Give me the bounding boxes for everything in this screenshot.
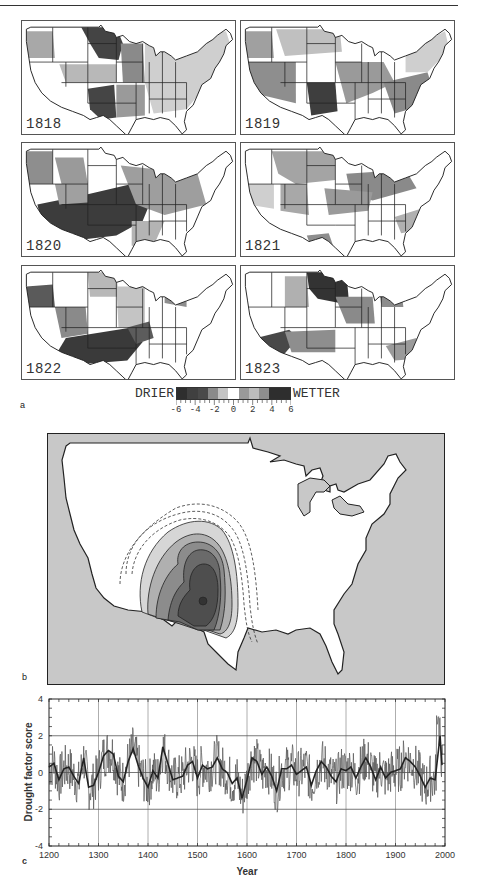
- y-axis-title: Drought factor score: [23, 722, 34, 821]
- year-label: 1818: [26, 116, 62, 132]
- x-tick-label: 1700: [286, 850, 306, 860]
- legend-swatch: [249, 388, 259, 399]
- x-tick-label: 1200: [39, 850, 59, 860]
- x-tick-label: 1500: [187, 850, 207, 860]
- legend-swatch: [239, 388, 249, 399]
- x-tick-label: 2000: [435, 850, 455, 860]
- x-tick-label: 1600: [237, 850, 257, 860]
- map-1823: 1823: [240, 265, 455, 380]
- map-1820: 1820: [21, 142, 236, 257]
- map-1822: 1822: [21, 265, 236, 380]
- year-label: 1819: [245, 116, 281, 132]
- y-tick-label: 2: [38, 731, 43, 741]
- year-label: 1823: [245, 361, 281, 377]
- panel-letter-c: c: [22, 856, 27, 866]
- panel-letter-a: a: [20, 400, 25, 410]
- x-tick-label: 1800: [336, 850, 356, 860]
- legend-swatch: [177, 388, 187, 399]
- legend-tick-label: 2: [250, 405, 255, 415]
- legend-tick-label: 6: [288, 405, 293, 415]
- y-tick-label: -2: [35, 804, 43, 814]
- panel-c-chart: 120013001400150016001700180019002000-4-2…: [0, 690, 479, 877]
- top-rule: [0, 5, 458, 6]
- legend-tick-label: 0: [231, 405, 236, 415]
- legend-swatch: [259, 388, 269, 399]
- map-1818: 1818: [21, 20, 236, 135]
- x-axis-title: Year: [236, 866, 257, 877]
- y-tick-label: 4: [38, 694, 43, 704]
- legend-tick-label: -4: [190, 405, 201, 415]
- legend-tick-label: -6: [171, 405, 182, 415]
- year-label: 1822: [26, 361, 62, 377]
- map-1819: 1819: [240, 20, 455, 135]
- x-tick-label: 1900: [385, 850, 405, 860]
- legend-swatch: [187, 388, 197, 399]
- drought-factor-timeseries: 120013001400150016001700180019002000-4-2…: [0, 690, 479, 877]
- legend-swatch: [280, 388, 290, 399]
- panel-letter-b: b: [22, 672, 27, 682]
- drought-contour-map: [48, 434, 445, 685]
- legend-drier-label: DRIER: [135, 386, 174, 401]
- x-tick-label: 1300: [88, 850, 108, 860]
- annual-series-line: [49, 716, 443, 814]
- year-label: 1820: [26, 238, 62, 254]
- panel-b-map: [47, 433, 445, 685]
- y-tick-label: -4: [35, 841, 43, 851]
- legend-wetter-label: WETTER: [293, 386, 340, 401]
- legend-tick-label: -2: [209, 405, 220, 415]
- legend-swatch: [269, 388, 279, 399]
- year-label: 1821: [245, 238, 281, 254]
- legend-color-bar: [176, 387, 291, 400]
- y-tick-label: 0: [38, 768, 43, 778]
- legend-swatch: [218, 388, 228, 399]
- drought-center-marker: [199, 597, 207, 605]
- x-tick-label: 1400: [138, 850, 158, 860]
- legend-swatch: [208, 388, 218, 399]
- us-outline: [62, 438, 406, 674]
- legend: DRIER WETTER -6-4-20246: [135, 385, 365, 415]
- legend-swatch: [228, 388, 238, 399]
- map-1821: 1821: [240, 142, 455, 257]
- legend-tick-label: 4: [269, 405, 274, 415]
- chart-series: [49, 716, 443, 814]
- legend-swatch: [198, 388, 208, 399]
